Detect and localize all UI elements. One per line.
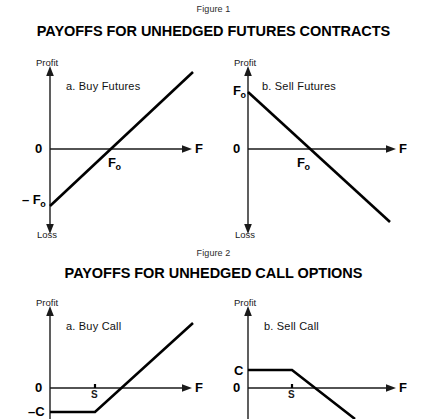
origin-label-1: 0: [35, 141, 42, 156]
figure-1-title: PAYOFFS FOR UNHEDGED FUTURES CONTRACTS: [0, 23, 427, 39]
panel-caption-buy-call: a. Buy Call: [66, 320, 121, 332]
x-axis-arrow-2: [386, 145, 396, 153]
x-breakeven-sub-1: o: [115, 162, 121, 172]
y-intercept-label-2: Fo: [233, 83, 246, 100]
x-axis-arrow-3: [182, 384, 192, 392]
payoff-line-buy-futures: [50, 72, 193, 206]
panel-caption-sell-futures: b. Sell Futures: [262, 80, 336, 92]
x-breakeven-label-1: Fo: [108, 155, 121, 172]
payoff-line-sell-call: [248, 370, 355, 419]
y-axis-top-label-4: Profit: [234, 297, 256, 308]
origin-label-4: 0: [233, 380, 240, 395]
y-intercept-label-4: C: [234, 363, 243, 378]
x-axis-label-4: F: [399, 380, 407, 395]
y-intercept-label-3: –C: [28, 404, 45, 419]
y-intercept-text-1: – F: [22, 192, 41, 207]
y-intercept-label-1: – Fo: [22, 192, 46, 209]
payoff-line-sell-futures: [248, 92, 390, 222]
y-intercept-sub-2: o: [240, 90, 246, 100]
y-axis-top-label-1: Profit: [36, 57, 58, 68]
panel-caption-sell-call: b. Sell Call: [264, 320, 319, 332]
x-axis-label-1: F: [195, 141, 203, 156]
figure-1-label: Figure 1: [0, 4, 427, 14]
figure-2-label: Figure 2: [0, 248, 427, 258]
y-axis-top-label-2: Profit: [234, 57, 256, 68]
figure-sheet: Figure 1 PAYOFFS FOR UNHEDGED FUTURES CO…: [0, 0, 427, 419]
origin-label-3: 0: [35, 380, 42, 395]
y-axis-bottom-label-2: Loss: [235, 229, 255, 240]
x-breakeven-sub-2: o: [304, 162, 310, 172]
x-breakeven-label-2: Fo: [297, 155, 310, 172]
payoff-line-buy-call: [50, 323, 193, 412]
y-axis-top-label-3: Profit: [36, 297, 58, 308]
panel-caption-buy-futures: a. Buy Futures: [66, 80, 140, 92]
strike-label-4: S: [288, 389, 295, 400]
x-axis-label-3: F: [195, 380, 203, 395]
y-axis-bottom-label-1: Loss: [37, 229, 57, 240]
figure-2-title: PAYOFFS FOR UNHEDGED CALL OPTIONS: [0, 265, 427, 281]
y-intercept-sub-1: o: [40, 199, 46, 209]
charts-canvas: [0, 0, 427, 419]
x-axis-arrow-1: [182, 145, 192, 153]
strike-label-3: S: [91, 389, 98, 400]
x-axis-arrow-4: [386, 384, 396, 392]
x-axis-label-2: F: [399, 141, 407, 156]
origin-label-2: 0: [233, 141, 240, 156]
